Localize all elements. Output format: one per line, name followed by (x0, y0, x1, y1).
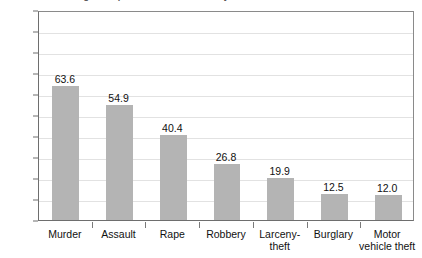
gridline (39, 75, 413, 76)
gridline (39, 54, 413, 55)
y-axis-tick (33, 179, 38, 180)
y-axis-tick (33, 137, 38, 138)
bar (375, 195, 402, 220)
x-axis-category-label: Motorvehicle theft (348, 229, 422, 252)
plot-area (38, 11, 414, 221)
bar-value-label: 12.0 (377, 182, 397, 194)
gridline (39, 138, 413, 139)
y-axis-tick (33, 53, 38, 54)
bar-value-label: 63.6 (55, 73, 75, 85)
x-axis-tick (145, 222, 146, 228)
gridline (39, 33, 413, 34)
x-axis-tick (253, 222, 254, 228)
bar-value-label: 26.8 (216, 151, 236, 163)
bar (52, 86, 79, 220)
y-axis-tick (33, 32, 38, 33)
chart-title: Percentage of reported crimes cleared by… (44, 0, 344, 3)
y-axis-tick (33, 158, 38, 159)
y-axis-tick (33, 116, 38, 117)
bar-value-label: 19.9 (269, 165, 289, 177)
y-axis-tick (33, 74, 38, 75)
y-axis-tick (33, 11, 38, 12)
bar-value-label: 54.9 (108, 92, 128, 104)
bar-value-label: 12.5 (323, 181, 343, 193)
bar (160, 135, 187, 220)
x-axis-tick (360, 222, 361, 228)
y-axis-tick (33, 200, 38, 201)
y-axis-tick (33, 95, 38, 96)
x-axis-tick (92, 222, 93, 228)
bar (267, 178, 294, 220)
bar (214, 164, 241, 220)
gridline (39, 96, 413, 97)
bar-chart: Percentage of reported crimes cleared by… (0, 0, 422, 258)
bar-value-label: 40.4 (162, 122, 182, 134)
gridline (39, 117, 413, 118)
bar (106, 105, 133, 220)
x-axis-tick (307, 222, 308, 228)
bar (321, 194, 348, 220)
y-axis-tick (33, 221, 38, 222)
x-axis-tick (199, 222, 200, 228)
